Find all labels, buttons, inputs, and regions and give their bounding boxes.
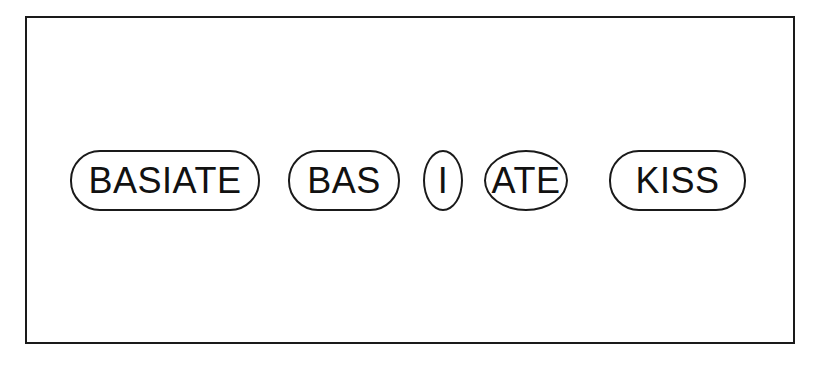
token-label: BAS xyxy=(307,160,381,202)
token-ate: ATE xyxy=(484,150,568,211)
token-label: I xyxy=(438,160,449,202)
token-label: ATE xyxy=(492,160,561,202)
token-label: KISS xyxy=(635,160,719,202)
token-bas: BAS xyxy=(288,150,400,211)
token-label: BASIATE xyxy=(89,160,242,202)
token-i: I xyxy=(423,150,463,211)
token-basiate: BASIATE xyxy=(70,150,260,211)
token-kiss: KISS xyxy=(609,150,746,211)
